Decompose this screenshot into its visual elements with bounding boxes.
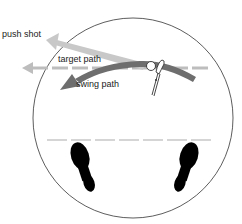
ball (147, 62, 156, 71)
target-path-label: target path (58, 55, 101, 64)
left-footprint-icon (67, 140, 97, 193)
right-footprint-icon (172, 140, 202, 193)
swing-path-label: swing path (76, 80, 119, 89)
push-shot-label: push shot (2, 30, 41, 39)
stance-circle (33, 18, 233, 218)
